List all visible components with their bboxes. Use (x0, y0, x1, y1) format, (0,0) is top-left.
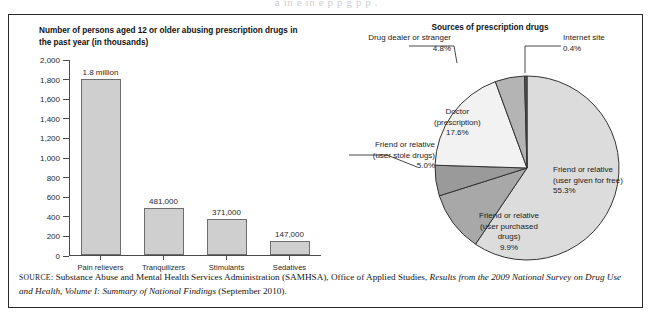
bar-chart-y-tick (63, 177, 69, 178)
bar-chart-bar (144, 208, 184, 255)
pie-slice-label-line: drugs) (479, 232, 539, 243)
bar-chart-y-tick (63, 60, 69, 61)
bar-chart-bar (270, 241, 310, 255)
bar-chart-y-axis-label: 0 (16, 252, 60, 261)
source-text-part1: Substance Abuse and Mental Health Servic… (56, 272, 430, 282)
bar-chart-title: Number of persons aged 12 or older abusi… (39, 25, 307, 48)
bar-chart-y-tick (63, 197, 69, 198)
source-note: SOURCE: Substance Abuse and Mental Healt… (19, 271, 631, 297)
bar-chart-y-axis-label: 600 (16, 193, 60, 202)
bar-chart-bar (207, 219, 247, 255)
bar-chart-y-tick (63, 79, 69, 80)
pie-slice-label-line: Friend or relative (339, 140, 435, 151)
bar-chart-y-axis-label: 800 (16, 173, 60, 182)
pie-slice-label-line: 5.0% (339, 161, 435, 172)
bar-chart-y-tick (63, 236, 69, 237)
bar-chart-y-axis-label: 1,400 (16, 114, 60, 123)
bar-chart-y-axis-label: 400 (16, 212, 60, 221)
bar-chart-y-axis-label: 200 (16, 232, 60, 241)
pie-slice-label-line: 0.4% (563, 44, 605, 55)
cut-off-text-above-figure: a in e in e p p g p p . (0, 0, 653, 13)
bar-chart-y-tick (63, 216, 69, 217)
bar-chart-panel: Number of persons aged 12 or older abusi… (9, 15, 339, 270)
bar-chart-y-axis-label: 1,200 (16, 134, 60, 143)
bar-chart-y-axis-label: 1,600 (16, 95, 60, 104)
bar-chart-y-tick (63, 138, 69, 139)
bar-chart-value-label: 371,000 (212, 208, 241, 217)
pie-slice-label-line: Friend or relative (553, 165, 623, 176)
pie-slice-label-line: 4.8% (339, 44, 451, 55)
pie-slice-label-line: (user stole drugs) (339, 151, 435, 162)
bar-chart-value-label: 481,000 (149, 197, 178, 206)
pie-slice-label: Doctor(prescription)17.6% (434, 107, 481, 139)
bar-chart-x-tick (226, 256, 227, 260)
bar-chart-x-axis (69, 255, 321, 256)
pie-chart-panel: Sources of prescription drugs Friend or … (339, 15, 641, 270)
bar-chart-x-tick (163, 256, 164, 260)
pie-slice-label-line: (prescription) (434, 118, 481, 129)
pie-slice-label-line: Internet site (563, 33, 605, 44)
bar-chart-y-axis-label: 1,000 (16, 154, 60, 163)
pie-slice-label: Drug dealer or stranger4.8% (339, 33, 451, 54)
bar-chart-plot-area: 02004006008001,0001,2001,4001,6001,8002,… (69, 60, 321, 256)
bar-chart-value-label: 147,000 (275, 230, 304, 239)
bar-chart-y-tick (63, 99, 69, 100)
pie-slice-label-line: 55.3% (553, 186, 623, 197)
source-label: SOURCE (19, 273, 51, 282)
figure-frame: Number of persons aged 12 or older abusi… (8, 14, 643, 308)
pie-slice-label-line: (user given for free) (553, 176, 623, 187)
bar-chart-y-tick (63, 158, 69, 159)
bar-chart-y-tick (63, 118, 69, 119)
bar-chart-x-tick (100, 256, 101, 260)
pie-slice-label: Friend or relative(user purchaseddrugs)9… (479, 211, 539, 253)
pie-slice-label-line: Doctor (434, 107, 481, 118)
bar-chart-y-axis-label: 1,800 (16, 75, 60, 84)
bar-chart-y-axis (69, 60, 70, 256)
pie-slice-label: Friend or relative(user given for free)5… (553, 165, 623, 197)
bar-chart-bar (81, 79, 121, 255)
bar-chart-y-tick (63, 256, 69, 257)
pie-slice-label-line: (user purchased (479, 222, 539, 233)
pie-leader-line (525, 46, 561, 73)
pie-slice-label-line: Friend or relative (479, 211, 539, 222)
charts-container: Number of persons aged 12 or older abusi… (9, 15, 641, 267)
source-text-part2: (September 2010). (216, 286, 287, 296)
bar-chart-y-axis-label: 2,000 (16, 56, 60, 65)
bar-chart-value-label: 1.8 million (82, 68, 118, 77)
pie-slice-label: Internet site0.4% (563, 33, 605, 54)
bar-chart-x-tick (289, 256, 290, 260)
pie-slice-label: Friend or relative(user stole drugs)5.0% (339, 140, 435, 172)
pie-slice-label-line: Drug dealer or stranger (339, 33, 451, 44)
pie-slice-label-line: 9.9% (479, 243, 539, 254)
pie-slice-label-line: 17.6% (434, 128, 481, 139)
